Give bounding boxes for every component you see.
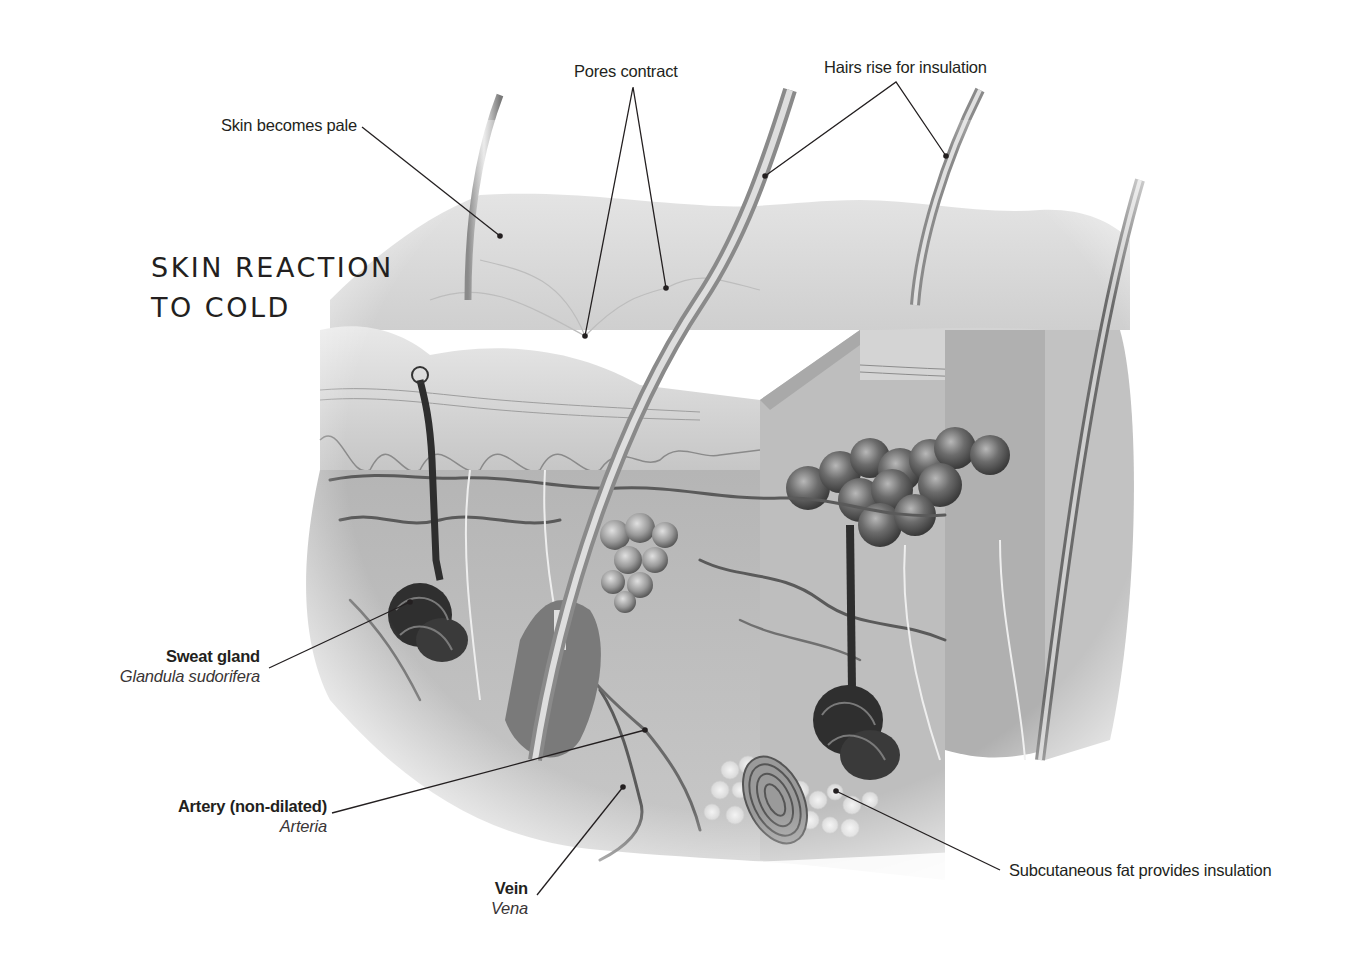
label-sweat-gland: Sweat gland Glandula sudorifera: [120, 646, 260, 686]
title-line-1: SKIN REACTION: [151, 248, 394, 288]
label-artery: Artery (non-dilated) Arteria: [178, 796, 327, 836]
label-vein: Vein Vena: [491, 878, 528, 918]
vein-common: Vein: [491, 878, 528, 898]
vein-latin: Vena: [491, 898, 528, 918]
label-subcutaneous-fat: Subcutaneous fat provides insulation: [1009, 860, 1271, 880]
sweat-gland-latin: Glandula sudorifera: [120, 666, 260, 686]
label-pores-contract: Pores contract: [574, 61, 678, 81]
sweat-gland-common: Sweat gland: [120, 646, 260, 666]
artery-common: Artery (non-dilated): [178, 796, 327, 816]
label-hairs-rise: Hairs rise for insulation: [824, 57, 987, 77]
label-skin-pale: Skin becomes pale: [221, 115, 357, 135]
diagram-title: SKIN REACTION TO COLD: [151, 248, 394, 328]
artery-latin: Arteria: [178, 816, 327, 836]
title-line-2: TO COLD: [151, 288, 394, 328]
